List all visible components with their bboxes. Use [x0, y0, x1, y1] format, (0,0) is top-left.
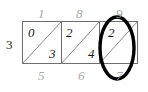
cell-1-lower-right-digit: 3	[49, 47, 56, 60]
column-label-top-3: 9	[116, 7, 123, 20]
column-label-top-2: 8	[76, 7, 83, 20]
cell-2-lower-right-digit: 4	[88, 47, 95, 60]
column-label-bottom-2: 6	[78, 69, 85, 82]
cell-1-upper-left-digit: 0	[28, 26, 35, 39]
column-label-top-1: 1	[38, 7, 45, 20]
cell-3-upper-left-digit: 2	[108, 26, 115, 39]
row-label-left-1: 3	[6, 38, 13, 51]
column-label-bottom-1: 5	[38, 69, 45, 82]
cell-2-upper-left-digit: 2	[66, 26, 73, 39]
lattice-diagram: 3 1 8 9 5 6 7 0 3 2 4 2	[0, 0, 148, 92]
diagram-canvas	[0, 0, 148, 92]
column-label-bottom-3: 7	[116, 69, 123, 82]
